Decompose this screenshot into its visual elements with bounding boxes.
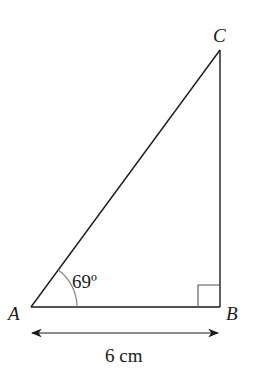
angle-label-a: 69º <box>72 271 97 292</box>
triangle-diagram: A B C 69º 6 cm <box>0 0 260 389</box>
vertex-label-c: C <box>213 25 226 46</box>
side-ac <box>31 50 220 307</box>
triangle-svg: A B C 69º 6 cm <box>0 0 260 389</box>
vertex-label-a: A <box>6 303 20 324</box>
side-length-label: 6 cm <box>105 345 143 366</box>
vertex-label-b: B <box>226 303 238 324</box>
right-angle-marker <box>198 285 220 307</box>
